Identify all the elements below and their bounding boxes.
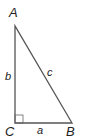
vertex-label-c: C [5, 124, 15, 139]
right-triangle-diagram: A C B a b c [0, 0, 85, 139]
right-angle-marker [15, 115, 23, 123]
vertex-label-a: A [8, 5, 18, 20]
side-label-b: b [5, 70, 11, 82]
triangle-shape [15, 26, 72, 123]
vertex-label-b: B [66, 124, 75, 139]
side-label-c: c [47, 66, 53, 78]
side-label-a: a [37, 124, 43, 136]
